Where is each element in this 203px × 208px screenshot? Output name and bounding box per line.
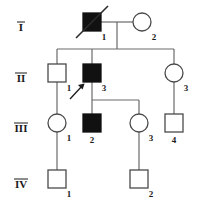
symbol-circle-unaffected-female[interactable]: [165, 64, 183, 82]
proband-arrow-icon: [70, 83, 85, 99]
symbol-square-unaffected-male[interactable]: [48, 64, 66, 82]
symbol-square-unaffected-male[interactable]: [130, 170, 148, 188]
individual-number-II-3: 3: [184, 83, 189, 93]
connector-lines: [57, 22, 174, 170]
individual-I-1[interactable]: 1: [76, 6, 108, 42]
generation-label-II: II: [17, 72, 26, 84]
individual-III-4[interactable]: 4: [165, 114, 183, 145]
individual-number-I-2: 2: [152, 32, 157, 42]
individual-number-IV-1: 1: [67, 189, 72, 199]
symbol-circle-unaffected-female[interactable]: [48, 114, 66, 132]
generation-label-III: III: [15, 122, 28, 134]
individual-III-3[interactable]: 3: [130, 114, 154, 143]
symbol-square-affected-male[interactable]: [83, 114, 101, 132]
pedigree-diagram: I II III IV 1 2 1 3: [0, 0, 203, 208]
individual-II-1[interactable]: 1: [48, 64, 72, 93]
individual-II-3[interactable]: 3: [165, 64, 189, 93]
generation-labels: I II III IV: [14, 21, 28, 190]
individual-number-III-3: 3: [149, 133, 154, 143]
generation-label-I: I: [19, 21, 23, 33]
symbol-square-affected-male[interactable]: [83, 64, 101, 82]
symbol-square-unaffected-male[interactable]: [165, 114, 183, 132]
symbol-circle-unaffected-female[interactable]: [130, 114, 148, 132]
symbol-circle-unaffected-female[interactable]: [133, 13, 151, 31]
pedigree-chart: I II III IV 1 2 1 3: [0, 0, 203, 208]
individual-number-IV-2: 2: [149, 189, 154, 199]
individual-IV-2[interactable]: 2: [130, 170, 154, 199]
generation-label-IV: IV: [15, 178, 27, 190]
individual-IV-1[interactable]: 1: [48, 170, 72, 199]
individual-III-2[interactable]: 2: [83, 114, 101, 145]
individual-number-III-1: 1: [67, 133, 72, 143]
individual-II-2[interactable]: 3: [70, 64, 107, 99]
individual-number-II-2: 3: [102, 83, 107, 93]
individual-number-I-1: 1: [102, 32, 107, 42]
symbol-square-unaffected-male[interactable]: [48, 170, 66, 188]
individual-III-1[interactable]: 1: [48, 114, 72, 143]
individual-number-II-1: 1: [67, 83, 72, 93]
individual-number-III-2: 2: [90, 135, 95, 145]
individual-number-III-4: 4: [172, 135, 177, 145]
individual-I-2[interactable]: 2: [133, 13, 157, 42]
